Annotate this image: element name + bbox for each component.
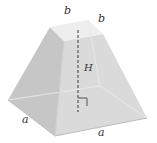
label-top-b-right: b [98,12,105,25]
label-height-H: H [84,62,93,73]
label-bottom-a-right: a [98,126,105,139]
label-top-b-left: b [64,4,71,17]
left-face [8,27,64,136]
label-bottom-a-left: a [22,113,29,126]
